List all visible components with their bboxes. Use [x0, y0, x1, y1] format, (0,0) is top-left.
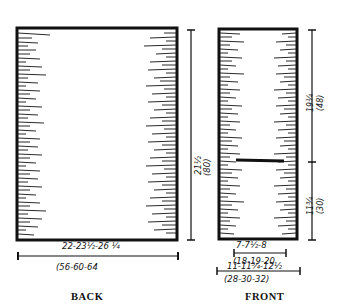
front-piece	[219, 29, 297, 239]
back-width-inches: 22-23½-26 ¼	[62, 241, 120, 251]
front-width-cm: (28-30-32)	[224, 274, 269, 284]
back-label: BACK	[71, 291, 103, 302]
front-marker-line	[236, 160, 284, 161]
back-piece	[17, 28, 177, 240]
front-lower-inches: 11¾	[306, 197, 315, 215]
back-width-dimension-line	[18, 252, 178, 260]
schematic-drawing	[0, 0, 345, 307]
front-neck-width-inches: 7-7½-8	[236, 240, 267, 250]
front-width-inches: 11-11¾-12½	[227, 261, 282, 271]
back-length-dimension-line	[187, 30, 195, 240]
front-upper-inches: 19¼	[306, 94, 315, 112]
front-label: FRONT	[245, 291, 284, 302]
back-length-cm: (80)	[202, 159, 212, 176]
front-lower-cm: (30)	[316, 198, 325, 214]
front-upper-cm: (48)	[316, 95, 325, 111]
back-width-cm: (56-60-64	[56, 262, 98, 272]
